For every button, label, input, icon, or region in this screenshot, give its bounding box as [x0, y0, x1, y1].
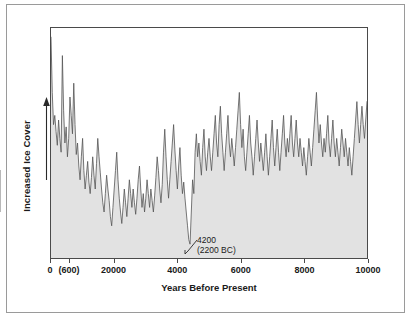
x-axis-tick	[368, 259, 369, 263]
x-axis-tick-label: 20000	[101, 265, 126, 275]
x-axis-tick	[241, 259, 242, 263]
x-axis-ticks	[50, 259, 368, 264]
plot-area	[50, 27, 368, 259]
x-axis-tick-label: 10000	[355, 265, 380, 275]
x-axis-tick	[114, 259, 115, 263]
x-axis-tick-label: (600)	[59, 265, 80, 275]
page-edge-rule	[0, 170, 1, 212]
annotation-event-4200: 4200 (2200 BC)	[197, 235, 236, 255]
ice-cover-area-chart	[51, 28, 367, 258]
annotation-leader-line	[184, 238, 198, 256]
y-axis-label: Increased Ice Cover	[18, 96, 34, 236]
x-axis-tick	[50, 259, 51, 263]
x-axis-tick-label: 6000	[231, 265, 251, 275]
x-axis-tick-label: 0	[47, 265, 52, 275]
x-axis-tick	[69, 259, 70, 263]
x-axis-tick	[304, 259, 305, 263]
x-axis-tick-label: 8000	[294, 265, 314, 275]
y-axis-label-text: Increased Ice Cover	[21, 120, 32, 212]
x-axis-tick	[177, 259, 178, 263]
figure-page: Increased Ice Cover 4200 (2200 BC) 0(600…	[0, 0, 412, 319]
x-axis-label: Years Before Present	[50, 282, 368, 293]
annotation-line-2: (2200 BC)	[197, 245, 236, 255]
annotation-line-1: 4200	[197, 235, 236, 245]
x-axis-tick-label: 4000	[167, 265, 187, 275]
series-ice-cover	[51, 37, 367, 258]
